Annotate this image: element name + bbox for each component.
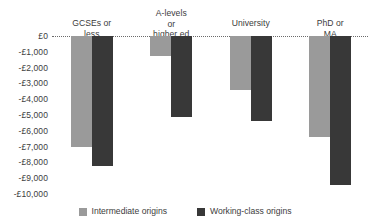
category-label: A-levels or higher ed (151, 8, 191, 40)
legend-item[interactable]: Working-class origins (197, 207, 292, 216)
plot-area: GCSEs or lessA-levels or higher edUniver… (52, 0, 370, 196)
bar-group: PhD or MA (291, 0, 370, 196)
bar-group: GCSEs or less (52, 0, 132, 196)
y-axis-tick-label: -£4,000 (18, 95, 48, 104)
category-label: University (232, 18, 270, 29)
bar-working-class-origins (251, 36, 272, 121)
legend-swatch-icon (79, 208, 87, 216)
bar-group: A-levels or higher ed (132, 0, 212, 196)
legend-swatch-icon (197, 208, 205, 216)
bar-working-class-origins (171, 36, 192, 117)
y-axis: £0-£1,000-£2,000-£3,000-£4,000-£5,000-£6… (0, 0, 52, 222)
legend-label: Intermediate origins (92, 207, 167, 216)
y-axis-tick-label: -£3,000 (18, 79, 48, 88)
y-axis-tick-label: -£10,000 (14, 190, 48, 199)
y-axis-tick-label: -£1,000 (18, 48, 48, 57)
y-axis-tick-label: -£5,000 (18, 111, 48, 120)
bar-chart: £0-£1,000-£2,000-£3,000-£4,000-£5,000-£6… (0, 0, 370, 222)
y-axis-tick-label: -£6,000 (18, 127, 48, 136)
y-axis-tick-label: -£7,000 (18, 142, 48, 151)
legend-label: Working-class origins (210, 207, 292, 216)
y-axis-tick-label: -£9,000 (18, 174, 48, 183)
bar-intermediate-origins (71, 36, 92, 147)
chart-legend: Intermediate originsWorking-class origin… (0, 207, 370, 216)
bar-intermediate-origins (309, 36, 330, 137)
bar-working-class-origins (330, 36, 351, 185)
y-axis-tick-label: -£2,000 (18, 63, 48, 72)
bar-intermediate-origins (230, 36, 251, 90)
bar-intermediate-origins (150, 36, 171, 56)
bar-working-class-origins (92, 36, 113, 166)
y-axis-tick-label: £0 (38, 32, 48, 41)
legend-item[interactable]: Intermediate origins (79, 207, 167, 216)
bar-group: University (211, 0, 291, 196)
y-axis-tick-label: -£8,000 (18, 158, 48, 167)
